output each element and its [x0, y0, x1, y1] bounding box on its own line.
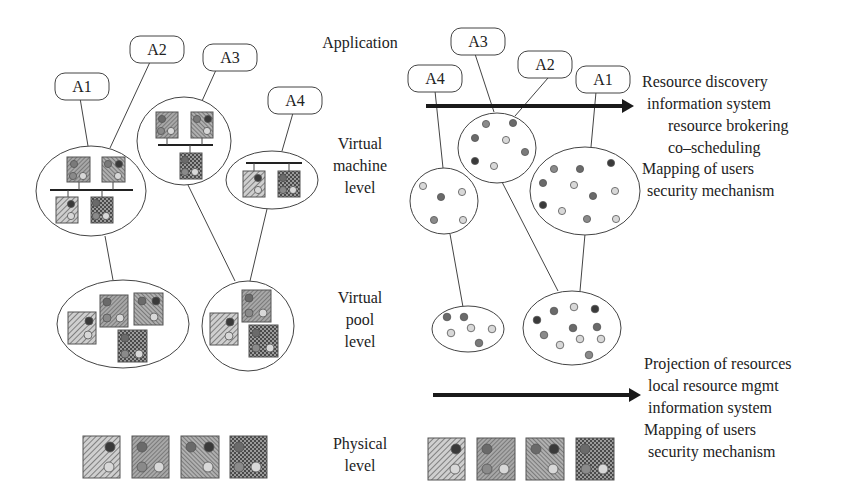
level-physical-label: Physical level: [320, 433, 400, 477]
pool-level-line-2: pool: [320, 309, 400, 331]
physical-level-line-1: Physical: [320, 433, 400, 455]
upper-service-3: resource brokering: [668, 115, 788, 136]
vm-level-line-3: level: [320, 177, 400, 199]
left-app-a2-label: A2: [130, 40, 184, 59]
upper-service-4: co–scheduling: [668, 137, 760, 158]
pool-level-line-3: level: [320, 331, 400, 353]
vm-level-line-2: machine: [320, 155, 400, 177]
left-app-a3-label: A3: [203, 48, 257, 67]
lower-service-1: Projection of resources: [644, 353, 792, 374]
left-app-a4-label: A4: [268, 91, 322, 110]
right-app-a3-label: A3: [451, 32, 505, 51]
right-app-a4-label: A4: [408, 69, 462, 88]
physical-level-line-2: level: [320, 455, 400, 477]
lower-service-4: Mapping of users: [644, 419, 756, 440]
right-vm-ellipses: [410, 113, 640, 235]
lower-arrow: [433, 388, 641, 402]
level-virtual-pool-label: Virtual pool level: [320, 287, 400, 353]
pool-level-line-1: Virtual: [320, 287, 400, 309]
upper-arrow: [426, 99, 634, 113]
upper-service-2: information system: [647, 93, 771, 114]
lower-service-2: local resource mgmt: [648, 375, 779, 396]
upper-service-6: security mechanism: [647, 180, 775, 201]
upper-service-5: Mapping of users: [642, 158, 754, 179]
right-app-a2-label: A2: [518, 55, 572, 74]
upper-service-1: Resource discovery: [642, 71, 768, 92]
lower-service-3: information system: [648, 397, 772, 418]
lower-service-5: security mechanism: [648, 441, 776, 462]
vm-level-line-1: Virtual: [320, 133, 400, 155]
right-app-a1-label: A1: [576, 70, 630, 89]
left-app-a1-label: A1: [55, 77, 109, 96]
level-virtual-machine-label: Virtual machine level: [320, 133, 400, 199]
level-application-label: Application: [310, 33, 410, 52]
